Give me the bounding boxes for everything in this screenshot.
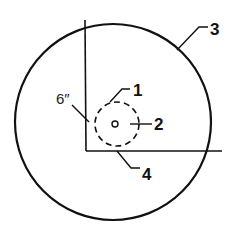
leader-1 [110, 89, 130, 102]
leader-3 [177, 27, 208, 50]
label-4: 4 [142, 165, 152, 184]
leader-4 [117, 151, 140, 168]
label-3: 3 [210, 20, 219, 39]
diagram-canvas: 1 2 3 4 6″ [0, 0, 239, 237]
dimension-label: 6″ [56, 90, 70, 107]
label-1: 1 [133, 81, 142, 100]
label-2: 2 [154, 115, 163, 134]
vertical-wall-line [85, 20, 86, 151]
center-point [112, 121, 118, 127]
